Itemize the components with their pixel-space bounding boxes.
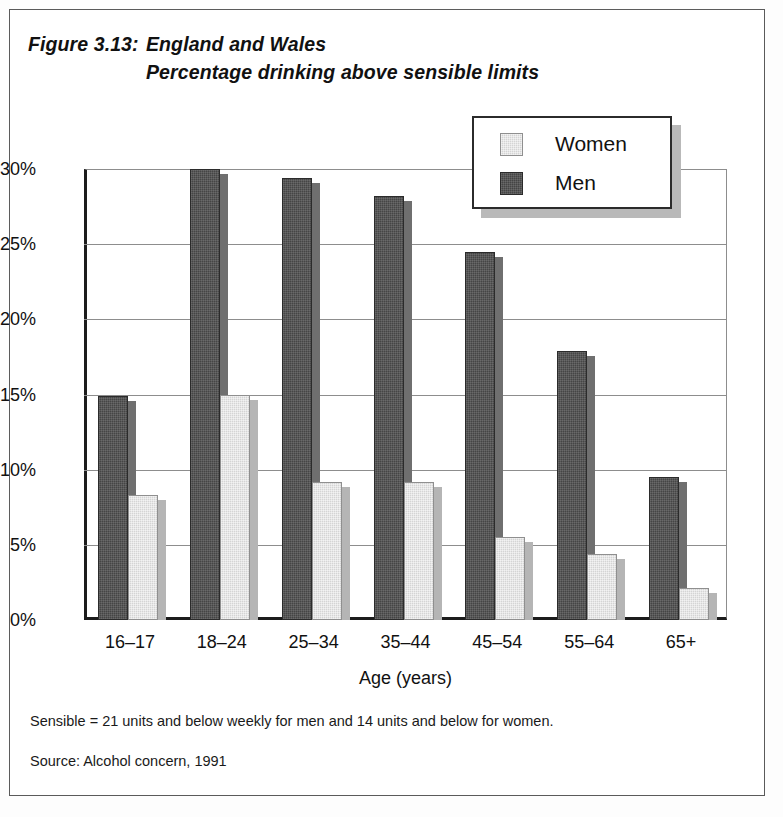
bar-front-face	[128, 495, 158, 620]
bar-side-face	[342, 487, 350, 620]
bar-side-face	[250, 400, 258, 621]
x-axis-title: Age (years)	[84, 668, 727, 689]
legend-item-women[interactable]: Women	[500, 132, 627, 156]
women-swatch-icon	[500, 133, 523, 156]
bar-side-face	[709, 593, 717, 620]
bar-women	[587, 554, 625, 620]
figure-page: Figure 3.13: England and Wales Percentag…	[0, 0, 783, 817]
y-axis-tick-label: 10%	[0, 461, 36, 479]
y-axis-tick-label: 15%	[0, 386, 36, 404]
x-axis-tick-label: 25–34	[268, 632, 360, 652]
bar-front-face	[190, 169, 220, 620]
bar-women	[312, 482, 350, 620]
bar-women	[220, 395, 258, 621]
bar-women	[404, 482, 442, 620]
bar-front-face	[404, 482, 434, 620]
y-axis-tick-label: 0%	[0, 611, 36, 629]
bar-front-face	[495, 537, 525, 620]
bar-front-face	[374, 196, 404, 620]
bar-side-face	[525, 542, 533, 620]
bar-front-face	[282, 178, 312, 620]
x-axis-tick-label: 18–24	[176, 632, 268, 652]
x-axis-tick-label: 45–54	[451, 632, 543, 652]
bar-chart: 0%5%10%15%20%25%30% 16–1718–2425–3435–44…	[0, 0, 783, 817]
bar-women	[679, 588, 717, 620]
legend-label-women: Women	[555, 132, 627, 156]
men-swatch-icon	[500, 172, 523, 195]
footnote-source: Source: Alcohol concern, 1991	[30, 752, 227, 770]
bar-front-face	[587, 554, 617, 620]
bar-front-face	[98, 396, 128, 620]
bar-women	[128, 495, 166, 620]
bar-front-face	[312, 482, 342, 620]
x-axis-tick-label: 65+	[635, 632, 727, 652]
legend-item-men[interactable]: Men	[500, 171, 596, 195]
bar-side-face	[158, 500, 166, 620]
y-axis-tick-label: 20%	[0, 310, 36, 328]
bar-front-face	[465, 252, 495, 620]
x-axis-tick-label: 35–44	[360, 632, 452, 652]
bar-side-face	[617, 559, 625, 620]
bar-front-face	[557, 351, 587, 620]
x-axis-tick-label: 55–64	[543, 632, 635, 652]
footnote-sensible-definition: Sensible = 21 units and below weekly for…	[30, 712, 554, 730]
bar-side-face	[434, 487, 442, 620]
chart-legend: Women Men	[472, 116, 672, 209]
x-axis-tick-label: 16–17	[84, 632, 176, 652]
y-axis-tick-label: 5%	[0, 536, 36, 554]
y-axis-tick-label: 30%	[0, 160, 36, 178]
bar-front-face	[220, 395, 250, 621]
y-axis-tick-label: 25%	[0, 235, 36, 253]
legend-label-men: Men	[555, 171, 596, 195]
bar-front-face	[649, 477, 679, 620]
bar-women	[495, 537, 533, 620]
bar-front-face	[679, 588, 709, 620]
